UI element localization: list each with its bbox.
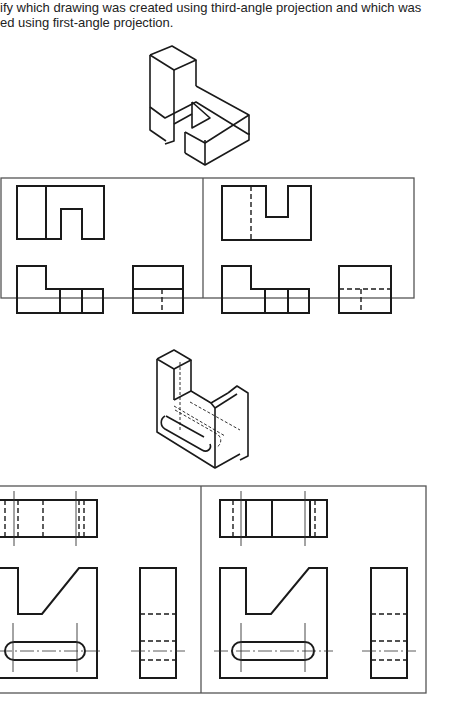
panel-2-right [214,491,416,678]
technical-drawings [0,0,454,705]
isometric-view-2 [157,350,248,468]
panel-1-right [222,186,391,313]
panel-1-left [17,186,183,313]
panel-2-left [0,491,185,678]
problem-1-panels [1,178,414,313]
problem-2-panels [0,486,426,693]
isometric-view-1 [150,46,250,165]
